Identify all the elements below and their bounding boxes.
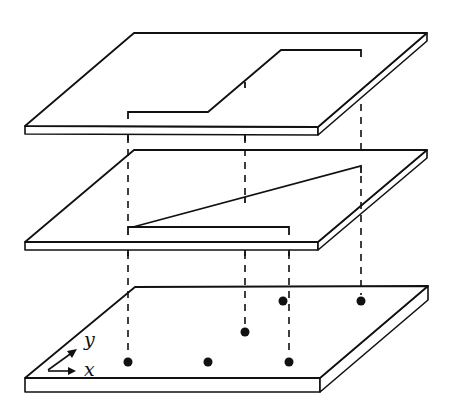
- point-marker: [285, 358, 294, 367]
- point-marker: [204, 358, 213, 367]
- x-axis-label: x: [84, 358, 95, 380]
- middle-plate: [25, 150, 427, 250]
- top-plate: [25, 33, 427, 135]
- point-marker: [124, 358, 133, 367]
- diagram-canvas: y x: [0, 0, 454, 410]
- point-marker: [241, 328, 250, 337]
- y-axis-label: y: [83, 328, 95, 350]
- point-marker: [357, 297, 366, 306]
- point-marker: [279, 297, 288, 306]
